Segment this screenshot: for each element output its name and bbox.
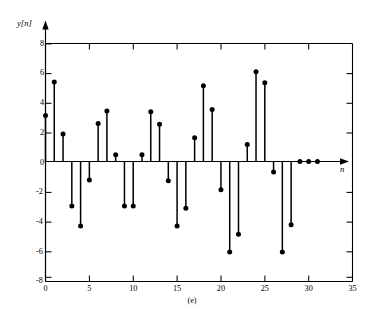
x-tick-label: 20 <box>217 284 225 293</box>
x-tick-label: 30 <box>305 284 313 293</box>
stem-marker <box>306 159 311 164</box>
stem-marker <box>166 178 171 183</box>
y-tick-label: 8 <box>40 39 44 48</box>
y-tick-label: -8 <box>36 276 43 285</box>
stem-marker <box>245 142 250 147</box>
stem-marker <box>78 224 83 229</box>
x-axis <box>46 158 350 164</box>
stem-plot-canvas: 86420-2-4-6-8 05101520253035 y[n] n (e) <box>0 0 373 318</box>
y-axis-arrowhead <box>42 21 48 30</box>
x-tick-label: 5 <box>87 284 91 293</box>
stem-marker <box>104 108 109 113</box>
x-axis-ticks <box>89 276 308 282</box>
stem-marker <box>210 107 215 112</box>
stem-marker <box>271 169 276 174</box>
y-tick-label: -4 <box>36 217 43 226</box>
x-axis-tick-labels: 05101520253035 <box>43 284 356 293</box>
stem-marker <box>113 152 118 157</box>
stem-marker <box>157 122 162 127</box>
y-axis-label: y[n] <box>16 18 32 28</box>
y-tick-label: 0 <box>40 158 44 167</box>
stem-plot-figure: 86420-2-4-6-8 05101520253035 y[n] n (e) <box>0 0 373 318</box>
x-tick-label: 10 <box>129 284 137 293</box>
stem-marker <box>297 159 302 164</box>
stem-marker <box>175 224 180 229</box>
x-axis-label: n <box>340 164 344 174</box>
stem-marker <box>69 204 74 209</box>
y-tick-label: 2 <box>40 128 44 137</box>
stem-marker <box>43 113 48 118</box>
stem-marker <box>280 250 285 255</box>
stem-marker <box>236 232 241 237</box>
stem-marker <box>315 159 320 164</box>
y-axis-ticks-right <box>347 74 353 278</box>
stem-marker <box>148 109 153 114</box>
stem-marker <box>254 69 259 74</box>
y-tick-label: -6 <box>36 247 43 256</box>
y-tick-label: 4 <box>40 98 44 107</box>
stem-marker <box>192 135 197 140</box>
stem-marker <box>52 80 57 85</box>
y-axis-tick-labels: 86420-2-4-6-8 <box>36 39 44 286</box>
stem-marker <box>227 250 232 255</box>
stem-marker <box>131 204 136 209</box>
x-axis-ticks-top <box>89 44 308 50</box>
stem-marker <box>289 222 294 227</box>
stem-marker <box>87 178 92 183</box>
stem-marker <box>122 204 127 209</box>
stem-marker <box>139 152 144 157</box>
stem-marker <box>96 121 101 126</box>
x-tick-label: 35 <box>348 284 356 293</box>
y-tick-label: -2 <box>36 187 43 196</box>
stem-marker <box>262 80 267 85</box>
figure-caption: (e) <box>187 296 196 305</box>
y-tick-label: 6 <box>40 68 44 77</box>
stem-marker <box>61 132 66 137</box>
stem-marker <box>183 206 188 211</box>
stem-marker <box>218 187 223 192</box>
x-tick-label: 25 <box>261 284 269 293</box>
x-tick-label: 0 <box>43 284 47 293</box>
x-tick-label: 15 <box>173 284 181 293</box>
y-axis-ticks <box>46 44 52 277</box>
stem-marker <box>201 83 206 88</box>
